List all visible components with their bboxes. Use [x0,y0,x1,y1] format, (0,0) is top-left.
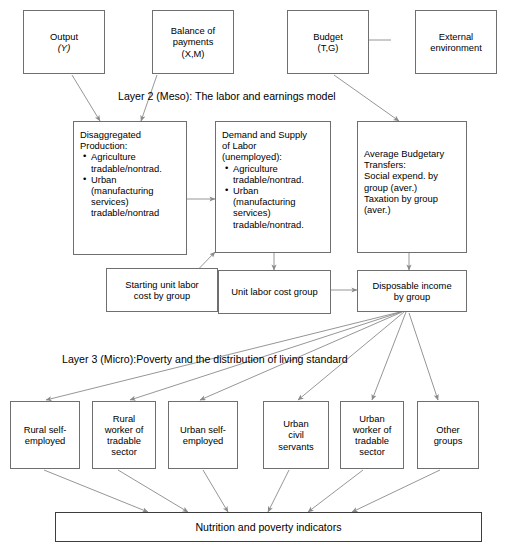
labor-bullet-urban: Urban (manufacturing services) tradable/… [233,185,325,230]
starting-cost-line1: Starting unit labor [109,279,215,290]
box-output[interactable]: Output (Y) [23,10,105,74]
starting-cost-line2: cost by group [109,290,215,301]
box-urban-worker-tradable[interactable]: Urban worker of tradable sector [340,401,404,469]
arrow-urban-worker-to-outcome [308,470,363,512]
transfers-line-6: (aver.) [364,204,461,215]
transfers-line-4: group (aver.) [364,182,461,193]
box-unit-labor-cost-group[interactable]: Unit labor cost group [218,270,331,314]
box-urban-self-employed[interactable]: Urban self- employed [168,401,238,469]
box-bop-line3: (X,M) [155,48,231,59]
box-other-groups[interactable]: Other groups [417,401,479,469]
box-balance-of-payments[interactable]: Balance of payments (X,M) [152,10,234,74]
transfers-line-1: Average Budgetary [364,148,461,159]
transfers-line-5: Taxation by group [364,193,461,204]
arrow-other-groups-to-outcome [352,470,440,512]
labor-title-line3: (unemployed): [222,151,325,162]
box-external-environment[interactable]: External environment [415,10,497,74]
transfers-line-2: Transfers: [364,159,461,170]
box-external-line1: External [418,31,494,42]
arrow-output-to-production [72,75,100,121]
box-rural-worker-tradable[interactable]: Rural worker of tradable sector [92,401,156,469]
arrow-rural-worker-to-outcome [118,470,188,512]
box-disposable-income[interactable]: Disposable income by group [357,270,467,312]
arrow-disposable-to-urban-worker [372,312,406,400]
box-starting-unit-labor-cost[interactable]: Starting unit labor cost by group [106,268,218,312]
box-budget-line2: (T,G) [290,42,366,53]
arrow-budget-to-transfers [334,75,399,121]
labor-bullet-agriculture: Agriculture tradable/nontrad. [233,163,325,185]
box-budget[interactable]: Budget (T,G) [287,10,369,74]
arrow-disposable-to-other-groups [409,313,438,400]
box-rural-self-employed[interactable]: Rural self- employed [10,401,80,469]
box-urban-civil-servants[interactable]: Urban civil servants [263,401,329,469]
labor-title-line2: of Labor [222,140,325,151]
labor-title-line1: Demand and Supply [222,129,325,140]
box-budget-line1: Budget [290,31,366,42]
box-bop-line1: Balance of [155,25,231,36]
arrow-rural-self-employed-to-outcome [44,470,148,512]
box-average-budgetary-transfers[interactable]: Average Budgetary Transfers: Social expe… [357,121,467,253]
disposable-income-line2: by group [360,291,464,302]
box-output-line2: (Y) [26,42,102,53]
transfers-line-3: Social expend. by [364,170,461,181]
box-output-line1: Output [26,31,102,42]
outcome-label: Nutrition and poverty indicators [195,521,341,533]
layer-2-label: Layer 2 (Meso): The labor and earnings m… [118,90,336,102]
box-bop-line2: payments [155,36,231,47]
unit-labor-cost-line1: Unit labor cost group [221,286,328,297]
diagram-canvas: Output (Y) Balance of payments (X,M) Bud… [0,0,509,552]
production-bullet-agriculture: Agriculture tradable/nontrad. [91,151,181,173]
box-nutrition-poverty-indicators[interactable]: Nutrition and poverty indicators [55,512,482,542]
arrow-urban-civil-servants-to-outcome [268,470,289,512]
box-external-line2: environment [418,42,494,53]
layer-3-label: Layer 3 (Micro):Poverty and the distribu… [62,353,348,365]
production-title-line1: Disaggregated [80,129,181,140]
disposable-income-line1: Disposable income [360,280,464,291]
box-demand-supply-labor[interactable]: Demand and Supply of Labor (unemployed):… [215,121,331,253]
box-disaggregated-production[interactable]: Disaggregated Production: Agriculture tr… [73,121,187,255]
production-title-line2: Production: [80,140,181,151]
production-bullet-urban: Urban (manufacturing services) tradable/… [91,174,181,219]
labor-bullet-list: Agriculture tradable/nontrad. Urban (man… [222,163,325,230]
production-bullet-list: Agriculture tradable/nontrad. Urban (man… [80,151,181,218]
arrow-urban-self-employed-to-outcome [203,470,228,512]
